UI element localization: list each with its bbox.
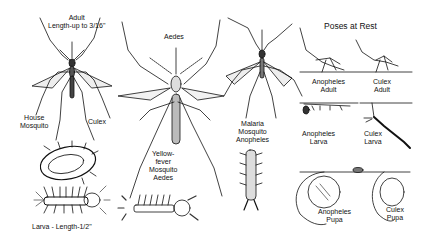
aedes-caption: Yellow- fever Mosquito Aedes — [149, 150, 177, 182]
label-line: Mosquito — [149, 166, 177, 174]
label-line: Pupa — [386, 214, 404, 222]
label-line: Aedes — [149, 174, 177, 182]
anopheles-larva-label: Anopheles Larva — [302, 130, 335, 146]
aedes-larva-drawing — [118, 195, 198, 220]
label-line: Larva — [302, 138, 335, 146]
label-line: Pupa — [318, 216, 351, 224]
label-line: Culex — [386, 206, 404, 214]
line-art — [0, 0, 433, 244]
anopheles-pupa-label: Anopheles Pupa — [318, 208, 351, 224]
label-line: Adult — [312, 86, 345, 94]
culex-pupa-label: Culex Pupa — [386, 206, 404, 222]
label-line: Anopheles — [312, 78, 345, 86]
poses-at-rest-drawing — [296, 28, 412, 225]
culex-adult-rest-label: Culex Adult — [373, 78, 391, 94]
culex-larva-drawing — [34, 186, 110, 214]
label-line: Length-up to 3/16" — [48, 22, 105, 30]
label-line: Culex — [373, 78, 391, 86]
label-line: Adult — [48, 14, 105, 22]
label-line: Mosquito — [20, 122, 48, 130]
anopheles-caption: Malaria Mosquito Anopheles — [236, 120, 269, 144]
anopheles-larva-drawing — [240, 150, 262, 210]
label-line: Anopheles — [302, 130, 335, 138]
aedes-genus-label: Aedes — [164, 33, 184, 41]
label-line: House — [20, 114, 48, 122]
house-mosquito-label: House Mosquito — [20, 114, 48, 130]
label-line: Culex — [364, 130, 382, 138]
culex-larva-rest-label: Culex Larva — [364, 130, 382, 146]
mosquito-illustration: Adult Length-up to 3/16" House Mosquito … — [0, 0, 433, 244]
anopheles-adult-label: Anopheles Adult — [312, 78, 345, 94]
poses-at-rest-heading: Poses at Rest — [324, 22, 377, 30]
label-line: fever — [149, 158, 177, 166]
anopheles-adult-drawing — [224, 18, 302, 118]
label-line: Mosquito — [236, 128, 269, 136]
culex-curled-larva-drawing — [37, 141, 98, 184]
label-line: Yellow- — [149, 150, 177, 158]
culex-larva-label: Larva - Length-1/2" — [32, 223, 92, 231]
label-line: Larva — [364, 138, 382, 146]
label-line: Anopheles — [318, 208, 351, 216]
label-line: Adult — [373, 86, 391, 94]
label-line: Anopheles — [236, 136, 269, 144]
culex-genus-label: Culex — [88, 118, 106, 126]
culex-adult-label: Adult Length-up to 3/16" — [48, 14, 105, 30]
label-line: Malaria — [236, 120, 269, 128]
